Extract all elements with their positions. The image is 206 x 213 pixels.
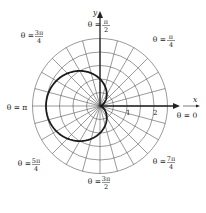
grid-ray — [100, 41, 117, 106]
angle-label-numerator: 5π — [32, 157, 41, 165]
angle-label-numerator: π — [104, 18, 109, 26]
grid-ray — [100, 89, 165, 106]
angle-label: θ = 0 — [177, 111, 198, 120]
angle-label-numerator: 3π — [102, 175, 111, 183]
angle-label: θ = π4 — [153, 33, 175, 49]
angle-label-prefix: θ = — [18, 159, 31, 168]
angle-label-prefix: θ = — [21, 31, 34, 40]
grid-ray — [100, 58, 148, 106]
angle-label-text: θ = 0 — [177, 111, 198, 120]
theta-zero-arrow-icon — [196, 105, 200, 108]
angle-label-denominator: 4 — [169, 163, 173, 171]
polar-plot: x y 1 2 θ = 0θ = π4θ = π2θ = 3π4θ = πθ =… — [0, 0, 206, 213]
x-axis-arrow-icon — [173, 103, 180, 109]
angle-label-numerator: 3π — [35, 29, 44, 37]
angle-label-prefix: θ = — [88, 20, 101, 29]
angle-label-text: θ = π — [7, 103, 28, 112]
grid-ray — [52, 106, 100, 154]
x-axis-label: x — [193, 95, 198, 104]
grid-ray — [35, 89, 100, 106]
angle-label-denominator: 4 — [37, 37, 41, 45]
r-tick-label-1: 1 — [126, 109, 130, 117]
y-axis-label: y — [92, 8, 98, 17]
angle-label-denominator: 4 — [34, 165, 38, 173]
angle-label-numerator: 7π — [167, 155, 176, 163]
angle-label: θ = 3π4 — [21, 29, 44, 45]
r-tick-label-2: 2 — [153, 109, 157, 117]
angle-label-prefix: θ = — [153, 35, 166, 44]
angle-label-prefix: θ = — [88, 177, 101, 186]
grid-ray — [100, 106, 148, 154]
grid-ray — [66, 106, 100, 164]
angle-label-denominator: 2 — [104, 183, 108, 191]
angle-label: θ = π — [7, 103, 28, 112]
angle-label-numerator: π — [169, 33, 174, 41]
angle-label-denominator: 4 — [169, 41, 173, 49]
grid-ray — [52, 58, 100, 106]
angle-label: θ = 3π2 — [88, 175, 111, 191]
angle-label-denominator: 2 — [104, 26, 108, 34]
axes: x y 1 2 — [92, 8, 200, 117]
grid-ray — [66, 48, 100, 106]
grid-ray — [100, 106, 117, 171]
angle-label: θ = π2 — [88, 18, 110, 34]
angle-label: θ = 5π4 — [18, 157, 41, 173]
angle-label: θ = 7π4 — [153, 155, 176, 171]
grid-ray — [100, 48, 134, 106]
angle-label-prefix: θ = — [153, 157, 166, 166]
grid-ray — [100, 72, 158, 106]
y-axis-arrow-icon — [97, 11, 103, 18]
grid-ray — [35, 106, 100, 123]
